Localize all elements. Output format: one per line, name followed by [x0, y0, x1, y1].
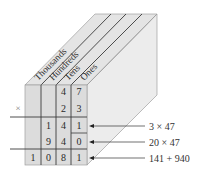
digit-r1-tens: 2 — [61, 103, 66, 114]
digit-r2-hundreds: 1 — [46, 120, 51, 131]
digit-r4-tens: 8 — [61, 152, 66, 163]
digit-r1-ones: 3 — [77, 103, 82, 114]
annotation-row-4: 141 + 940 — [149, 153, 190, 164]
digit-r4-ones: 1 — [77, 152, 82, 163]
digit-r3-hundreds: 9 — [46, 136, 51, 147]
arrow-icon — [89, 156, 145, 160]
digit-r3-ones: 0 — [77, 136, 82, 147]
digit-r2-ones: 1 — [77, 120, 82, 131]
digit-r4-thousands: 1 — [31, 152, 36, 163]
digit-r0-ones: 7 — [77, 86, 82, 97]
annotation-row-2: 3 × 47 — [149, 121, 175, 132]
digit-r2-tens: 4 — [61, 120, 66, 131]
place-value-diagram: Thousands Hundreds Tens Ones × 4 7 2 3 1… — [0, 0, 202, 175]
digit-r4-hundreds: 0 — [46, 152, 51, 163]
annotation-row-3: 20 × 47 — [149, 137, 180, 148]
times-sign: × — [15, 103, 20, 113]
digit-r0-tens: 4 — [61, 86, 66, 97]
digit-r3-tens: 4 — [61, 136, 66, 147]
place-value-block: Thousands Hundreds Tens Ones × 4 7 2 3 1… — [0, 0, 202, 175]
